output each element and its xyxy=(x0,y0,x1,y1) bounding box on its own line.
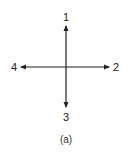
label-1: 1 xyxy=(63,11,69,23)
label-2: 2 xyxy=(113,61,119,73)
caption: (a) xyxy=(60,134,72,145)
label-4: 4 xyxy=(11,61,17,73)
label-3: 3 xyxy=(63,111,69,123)
direction-diagram: 1 2 3 4 (a) xyxy=(0,0,131,155)
